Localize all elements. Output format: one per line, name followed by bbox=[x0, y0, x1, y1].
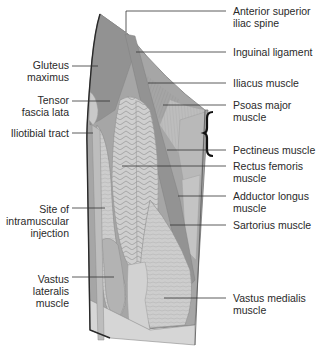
label-iliacus: Iliacus muscle bbox=[233, 77, 299, 89]
label-tensor-fascia-lata: Tensor fascia lata bbox=[0, 94, 69, 118]
label-vastus-medialis: Vastus medialis muscle bbox=[233, 292, 306, 316]
label-line: Gluteus bbox=[0, 59, 69, 71]
label-line: Inguinal ligament bbox=[233, 46, 312, 58]
label-vastus-lateralis: Vastus lateralis muscle bbox=[0, 273, 69, 309]
label-line: muscle bbox=[233, 304, 306, 316]
label-iliotibial-tract: Iliotibial tract bbox=[0, 127, 69, 139]
label-line: muscle bbox=[233, 202, 309, 214]
label-line: Psoas major bbox=[233, 99, 291, 111]
label-line: fascia lata bbox=[0, 106, 69, 118]
label-line: injection bbox=[0, 227, 69, 239]
label-line: iliac spine bbox=[233, 17, 311, 29]
label-line: Vastus bbox=[0, 273, 69, 285]
label-line: Anterior superior bbox=[233, 5, 311, 17]
label-inguinal-ligament: Inguinal ligament bbox=[233, 46, 312, 58]
label-line: lateralis bbox=[0, 285, 69, 297]
label-line: Rectus femoris bbox=[233, 160, 303, 172]
label-sartorius: Sartorius muscle bbox=[233, 219, 311, 231]
label-line: Iliacus muscle bbox=[233, 77, 299, 89]
label-line: Vastus medialis bbox=[233, 292, 306, 304]
label-anterior-superior-iliac-spine: Anterior superior iliac spine bbox=[233, 5, 311, 29]
label-line: maximus bbox=[0, 71, 69, 83]
label-line: Sartorius muscle bbox=[233, 219, 311, 231]
label-line: muscle bbox=[0, 297, 69, 309]
label-line: Iliotibial tract bbox=[0, 127, 69, 139]
label-adductor-longus: Adductor longus muscle bbox=[233, 190, 309, 214]
label-gluteus-maximus: Gluteus maximus bbox=[0, 59, 69, 83]
label-line: muscle bbox=[233, 111, 291, 123]
label-injection-site: Site of intramuscular injection bbox=[0, 203, 69, 239]
label-line: Adductor longus bbox=[233, 190, 309, 202]
label-line: Pectineus muscle bbox=[233, 144, 315, 156]
label-line: Site of bbox=[0, 203, 69, 215]
label-line: muscle bbox=[233, 172, 303, 184]
label-pectineus: Pectineus muscle bbox=[233, 144, 315, 156]
label-line: Tensor bbox=[0, 94, 69, 106]
label-line: intramuscular bbox=[0, 215, 69, 227]
label-rectus-femoris: Rectus femoris muscle bbox=[233, 160, 303, 184]
label-psoas-major: Psoas major muscle bbox=[233, 99, 291, 123]
